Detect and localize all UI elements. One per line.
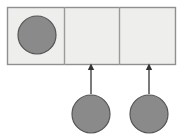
cell-3[interactable] [119,7,176,65]
cell-2[interactable] [64,7,119,65]
circle-in-cell-1[interactable] [18,16,56,54]
diagram-figure [0,0,191,139]
circle-below-cell-2[interactable] [72,95,110,133]
circle-below-cell-3[interactable] [130,95,168,133]
diagram-canvas [0,0,191,139]
